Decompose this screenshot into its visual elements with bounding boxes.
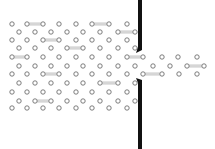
molecule-circle: [74, 38, 78, 42]
molecule-circle: [125, 38, 129, 42]
molecule-circle: [116, 30, 120, 34]
molecule-circle: [65, 81, 69, 85]
molecule-circle: [141, 55, 145, 59]
molecule-circle: [41, 38, 45, 42]
molecule-circle: [202, 64, 206, 68]
molecule-circle: [25, 22, 29, 26]
molecule-circle: [125, 55, 129, 59]
molecule-circle: [17, 30, 21, 34]
molecule-circle: [98, 81, 102, 85]
molecule-circle: [81, 46, 85, 50]
molecule-circle: [10, 90, 14, 94]
molecule-circle: [10, 106, 14, 110]
molecule-circle: [17, 46, 21, 50]
molecule-circle: [49, 30, 53, 34]
molecule-circle: [81, 64, 85, 68]
molecule-circle: [65, 30, 69, 34]
molecule-circle: [33, 99, 37, 103]
molecule-circle: [125, 90, 129, 94]
molecule-circle: [49, 99, 53, 103]
molecule-circle: [195, 55, 199, 59]
wall-lower-segment: [136, 78, 142, 149]
molecule-circle: [10, 72, 14, 76]
molecule-circle: [25, 55, 29, 59]
molecule-circle: [25, 90, 29, 94]
molecule-circle: [25, 72, 29, 76]
molecule-circle: [176, 55, 180, 59]
molecule-circle: [65, 99, 69, 103]
molecule-circle: [107, 38, 111, 42]
molecule-circle: [17, 99, 21, 103]
molecule-circle: [17, 64, 21, 68]
molecule-circle: [17, 81, 21, 85]
molecule-circle: [177, 72, 181, 76]
molecule-circle: [195, 72, 199, 76]
wall-upper-segment: [136, 0, 142, 53]
molecule-circle: [74, 55, 78, 59]
molecule-circle: [107, 90, 111, 94]
molecule-circle: [41, 90, 45, 94]
molecule-circle: [74, 22, 78, 26]
molecule-circle: [33, 64, 37, 68]
molecule-circle: [125, 106, 129, 110]
molecule-circle: [90, 90, 94, 94]
molecule-circle: [107, 106, 111, 110]
molecule-circle: [116, 99, 120, 103]
molecule-circle: [41, 55, 45, 59]
molecule-circle: [10, 38, 14, 42]
molecule-circle: [160, 55, 164, 59]
molecule-circle: [25, 38, 29, 42]
molecule-circle: [116, 46, 120, 50]
molecule-circle: [57, 72, 61, 76]
molecule-circle: [133, 64, 137, 68]
molecule-circle: [41, 106, 45, 110]
molecule-circle: [57, 90, 61, 94]
molecule-circle: [10, 55, 14, 59]
molecule-circle: [90, 106, 94, 110]
molecule-circle: [74, 72, 78, 76]
molecule-circle: [160, 72, 164, 76]
molecule-circle: [90, 38, 94, 42]
molecule-circle: [90, 72, 94, 76]
molecule-circle: [151, 64, 155, 68]
molecule-circle: [65, 64, 69, 68]
gas-molecules: [10, 22, 206, 110]
molecule-circle: [49, 46, 53, 50]
molecule-circle: [90, 22, 94, 26]
molecule-circle: [10, 22, 14, 26]
molecule-circle: [125, 22, 129, 26]
molecule-circle: [98, 99, 102, 103]
molecule-circle: [57, 106, 61, 110]
molecule-circle: [74, 90, 78, 94]
molecule-circle: [185, 64, 189, 68]
molecule-circle: [98, 30, 102, 34]
molecule-circle: [74, 106, 78, 110]
molecule-circle: [141, 72, 145, 76]
molecule-circle: [65, 46, 69, 50]
molecule-circle: [168, 64, 172, 68]
molecule-circle: [81, 30, 85, 34]
molecule-circle: [57, 55, 61, 59]
molecule-circle: [133, 99, 137, 103]
molecule-circle: [98, 46, 102, 50]
molecule-circle: [90, 55, 94, 59]
molecule-circle: [33, 81, 37, 85]
molecule-circle: [33, 46, 37, 50]
molecule-circle: [25, 106, 29, 110]
molecule-circle: [33, 30, 37, 34]
molecule-circle: [133, 81, 137, 85]
molecule-circle: [49, 64, 53, 68]
molecule-circle: [57, 22, 61, 26]
molecule-circle: [41, 22, 45, 26]
molecule-circle: [41, 72, 45, 76]
molecule-circle: [98, 64, 102, 68]
molecule-circle: [107, 72, 111, 76]
molecule-circle: [116, 81, 120, 85]
molecule-circle: [133, 46, 137, 50]
molecule-circle: [81, 81, 85, 85]
molecule-circle: [133, 30, 137, 34]
molecule-circle: [49, 81, 53, 85]
diagram-canvas: [0, 0, 215, 149]
molecule-circle: [57, 38, 61, 42]
molecule-circle: [116, 64, 120, 68]
